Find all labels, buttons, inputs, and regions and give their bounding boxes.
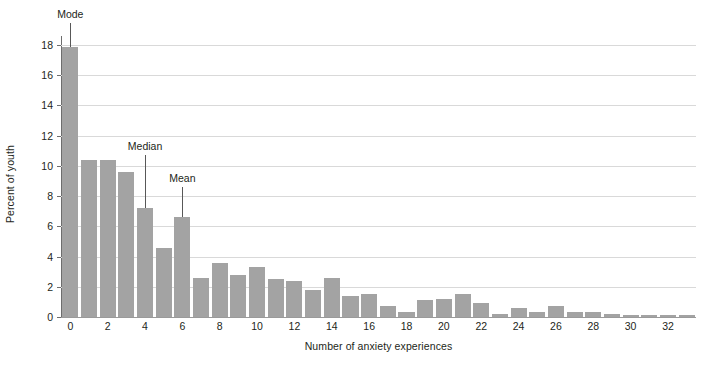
x-tick-label-20: 20 <box>438 320 450 332</box>
gridline-y-0 <box>61 317 696 318</box>
plot-area <box>61 36 696 317</box>
x-tick-label-22: 22 <box>475 320 487 332</box>
x-tick-label-8: 8 <box>217 320 223 332</box>
bar <box>679 315 695 317</box>
x-axis-title: Number of anxiety experiences <box>61 340 696 352</box>
bar <box>529 312 545 317</box>
x-tick-label-24: 24 <box>513 320 525 332</box>
bar <box>212 263 228 317</box>
bar <box>193 278 209 317</box>
bar <box>548 306 564 317</box>
bar <box>268 279 284 317</box>
bar <box>436 299 452 317</box>
bar <box>641 315 657 317</box>
x-tick-label-30: 30 <box>625 320 637 332</box>
bar <box>455 294 471 317</box>
bar <box>305 290 321 317</box>
x-tick-label-28: 28 <box>587 320 599 332</box>
x-tick-label-2: 2 <box>105 320 111 332</box>
bar <box>417 300 433 317</box>
gridline-y-12 <box>61 136 696 137</box>
x-tick-label-12: 12 <box>289 320 301 332</box>
annotation-leader-line <box>145 155 146 208</box>
x-tick-label-14: 14 <box>326 320 338 332</box>
gridline-y-10 <box>61 166 696 167</box>
gridline-y-16 <box>61 75 696 76</box>
bar <box>156 248 172 317</box>
bar <box>660 315 676 317</box>
bar <box>398 312 414 317</box>
y-tick-label-4: 4 <box>8 251 53 263</box>
gridline-y-8 <box>61 196 696 197</box>
bar-chart: Percent of youth 024681012141618 0246810… <box>0 0 718 368</box>
bar <box>342 296 358 317</box>
bar <box>511 308 527 317</box>
bar <box>623 315 639 317</box>
bar <box>380 306 396 317</box>
bar <box>473 303 489 317</box>
y-tick-label-16: 16 <box>8 69 53 81</box>
bar <box>249 267 265 317</box>
x-tick-label-32: 32 <box>662 320 674 332</box>
annotation-label: Mode <box>57 8 83 20</box>
annotation-leader-line <box>70 23 71 47</box>
bar <box>361 294 377 317</box>
bar <box>118 172 134 317</box>
annotation-label: Median <box>128 140 162 152</box>
bar <box>567 312 583 317</box>
bar <box>100 160 116 317</box>
x-tick-label-4: 4 <box>142 320 148 332</box>
bar <box>324 278 340 317</box>
bar <box>137 208 153 317</box>
y-tick-label-18: 18 <box>8 39 53 51</box>
bar <box>492 314 508 317</box>
x-tick-label-10: 10 <box>251 320 263 332</box>
x-tick-label-0: 0 <box>67 320 73 332</box>
bar <box>585 312 601 317</box>
gridline-y-6 <box>61 226 696 227</box>
bar <box>62 47 78 317</box>
y-tick-label-14: 14 <box>8 99 53 111</box>
annotation-label: Mean <box>169 172 195 184</box>
bar <box>174 217 190 317</box>
y-tick-label-6: 6 <box>8 220 53 232</box>
annotation-leader-line <box>182 187 183 217</box>
y-tick-label-10: 10 <box>8 160 53 172</box>
x-tick-label-26: 26 <box>550 320 562 332</box>
bar <box>286 281 302 317</box>
x-tick-label-16: 16 <box>363 320 375 332</box>
y-tick-label-8: 8 <box>8 190 53 202</box>
x-tick-label-18: 18 <box>401 320 413 332</box>
bar <box>604 314 620 317</box>
y-tick-label-2: 2 <box>8 281 53 293</box>
y-tick-label-12: 12 <box>8 130 53 142</box>
x-tick-label-6: 6 <box>179 320 185 332</box>
bar <box>81 160 97 317</box>
y-tick-label-0: 0 <box>8 311 53 323</box>
bar <box>230 275 246 317</box>
gridline-y-14 <box>61 105 696 106</box>
gridline-y-18 <box>61 45 696 46</box>
